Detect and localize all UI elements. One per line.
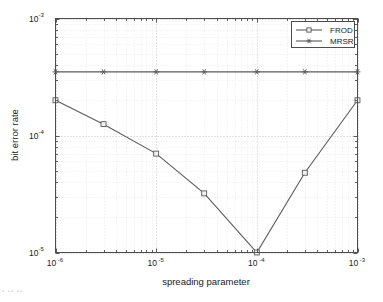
x-axis-title: spreading parameter [162, 276, 250, 287]
legend-label: FROD [330, 26, 353, 35]
svg-text:10: 10 [248, 258, 258, 268]
legend: FRODMRSR [292, 22, 355, 48]
data-point-marker [202, 191, 207, 196]
bit-error-rate-chart: 10-610-510-410-3 10-310-410-5 spreading … [0, 0, 383, 302]
svg-text:-3: -3 [39, 12, 45, 18]
svg-text:-6: -6 [58, 257, 64, 263]
svg-text:10: 10 [29, 14, 39, 24]
scan-artifact: ▪ ▪▪ ▪▪ [2, 288, 23, 294]
figure-container: 10-610-510-410-3 10-310-410-5 spreading … [0, 0, 383, 302]
data-point-marker [101, 122, 106, 127]
data-point-marker [307, 28, 311, 32]
svg-text:-3: -3 [360, 257, 366, 263]
svg-text:10: 10 [29, 248, 39, 258]
svg-text:10: 10 [349, 258, 359, 268]
data-point-marker [154, 151, 159, 156]
svg-text:-4: -4 [39, 129, 45, 135]
svg-text:-4: -4 [259, 257, 265, 263]
svg-text:10: 10 [147, 258, 157, 268]
y-axis-title: bit error rate [9, 109, 20, 161]
legend-label: MRSR [330, 37, 354, 46]
svg-text:10: 10 [29, 131, 39, 141]
svg-text:10: 10 [47, 258, 57, 268]
svg-text:-5: -5 [39, 246, 45, 252]
svg-text:-5: -5 [158, 257, 164, 263]
data-point-marker [302, 170, 307, 175]
